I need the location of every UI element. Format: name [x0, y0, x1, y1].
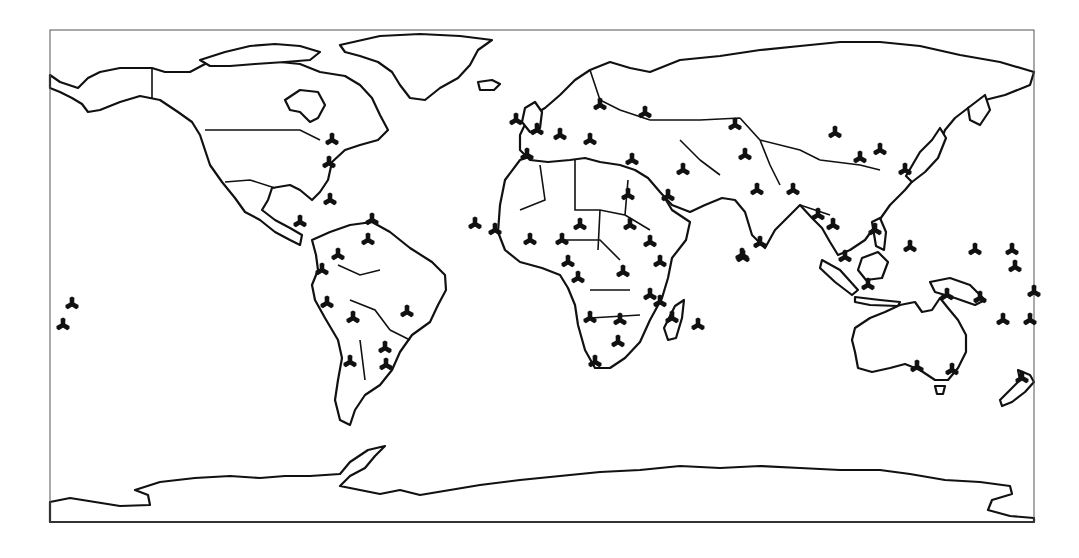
south-america-landmass	[312, 222, 446, 425]
trefoil-marker-icon	[292, 215, 307, 228]
trefoil-marker-icon	[1007, 260, 1022, 273]
landmasses	[50, 34, 1034, 522]
world-map-canvas	[0, 0, 1079, 558]
trefoil-marker-icon	[508, 113, 523, 126]
trefoil-marker-icon	[902, 240, 917, 253]
world-map	[0, 0, 1079, 558]
arctic-islands	[200, 44, 320, 66]
australia-landmass	[852, 298, 966, 380]
java-landmass	[855, 297, 900, 306]
new-zealand-landmass	[1000, 370, 1034, 406]
trefoil-marker-icon	[1004, 243, 1019, 256]
trefoil-marker-icon	[1022, 313, 1037, 326]
sumatra-landmass	[820, 260, 858, 295]
trefoil-marker-icon	[64, 297, 79, 310]
trefoil-marker-icon	[995, 313, 1010, 326]
trefoil-marker-icon	[967, 243, 982, 256]
trefoil-marker-icon	[690, 318, 705, 331]
borneo-landmass	[858, 252, 888, 280]
trefoil-marker-icon	[55, 318, 70, 331]
iceland-landmass	[478, 80, 500, 90]
north-america-landmass	[50, 60, 388, 245]
trefoil-marker-icon	[467, 217, 482, 230]
tasmania-landmass	[935, 386, 945, 394]
trefoil-marker-icon	[322, 193, 337, 206]
antarctica-landmass	[50, 446, 1034, 522]
